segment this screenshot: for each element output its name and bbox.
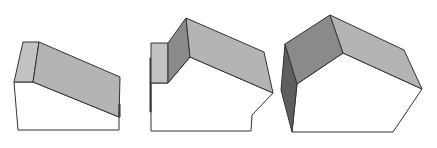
- shape-1: [14, 42, 120, 130]
- shape-3: [281, 15, 422, 132]
- step-face: [151, 43, 168, 83]
- right-edge-face: [119, 104, 120, 117]
- diagram-canvas: [0, 0, 437, 148]
- polyhedra-diagram: [0, 0, 437, 148]
- shape-2: [150, 18, 273, 131]
